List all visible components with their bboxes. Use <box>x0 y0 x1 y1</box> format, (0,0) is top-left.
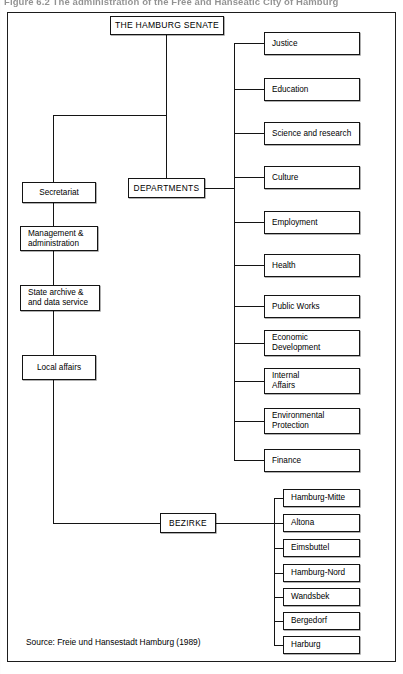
edge-departments-to-spine <box>205 188 235 189</box>
edge-bezirke-to-spine <box>216 523 275 524</box>
edge-senate-to-staff <box>53 115 167 116</box>
edge-spine-health <box>234 265 265 266</box>
node-secretariat[interactable]: Secretariat <box>22 182 96 203</box>
node-department-public-works[interactable]: Public Works <box>264 295 360 318</box>
node-local-affairs[interactable]: Local affairs <box>22 355 96 380</box>
figure-page: Figure 6.2 The administration of the Fre… <box>0 0 403 674</box>
edge-senate-stem <box>166 35 167 189</box>
node-department-economic-development[interactable]: Economic Development <box>264 330 360 356</box>
edge-spine-justice <box>234 43 265 44</box>
node-bezirk-hamburg-nord[interactable]: Hamburg-Nord <box>283 564 360 582</box>
node-bezirk-wandsbek[interactable]: Wandsbek <box>283 588 360 606</box>
node-management-administration[interactable]: Management & administration <box>20 226 98 251</box>
edge-local-affairs-drop <box>53 380 54 524</box>
node-bezirk-altona[interactable]: Altona <box>283 514 360 532</box>
edge-spine-public-works <box>234 306 265 307</box>
node-bezirk-bergedorf[interactable]: Bergedorf <box>283 612 360 630</box>
edge-spine-internal-affairs <box>234 381 265 382</box>
edge-spine-employment <box>234 222 265 223</box>
edge-staff-drop <box>53 115 54 183</box>
node-bezirke-hub[interactable]: BEZIRKE <box>160 513 216 533</box>
node-department-health[interactable]: Health <box>264 254 360 277</box>
figure-caption: Figure 6.2 The administration of the Fre… <box>4 0 400 8</box>
node-state-archive-data-service[interactable]: State archive & and data service <box>20 285 100 311</box>
node-department-culture[interactable]: Culture <box>264 166 360 189</box>
source-note: Source: Freie und Hansestadt Hamburg (19… <box>26 637 201 647</box>
node-department-internal-affairs[interactable]: Internal Affairs <box>264 368 360 394</box>
node-department-finance[interactable]: Finance <box>264 449 360 472</box>
node-bezirk-hamburg-mitte[interactable]: Hamburg-Mitte <box>283 489 360 507</box>
node-department-science-and-research[interactable]: Science and research <box>264 122 360 145</box>
edge-local-affairs-to-bezirke <box>53 523 160 524</box>
bezirke-spine <box>274 498 275 645</box>
edge-management-to-archive <box>53 251 54 285</box>
node-bezirk-harburg[interactable]: Harburg <box>283 636 360 654</box>
node-department-education[interactable]: Education <box>264 78 360 101</box>
node-departments-hub[interactable]: DEPARTMENTS <box>128 178 205 198</box>
edge-archive-to-local-affairs <box>53 311 54 355</box>
node-bezirk-eimsbuttel[interactable]: Eimsbuttel <box>283 539 360 557</box>
edge-spine-science-and-research <box>234 133 265 134</box>
edge-secretariat-to-management <box>53 203 54 226</box>
departments-spine <box>234 43 235 460</box>
node-department-justice[interactable]: Justice <box>264 32 360 55</box>
edge-spine-economic-development <box>234 343 265 344</box>
node-hamburg-senate[interactable]: THE HAMBURG SENATE <box>110 16 224 35</box>
edge-spine-culture <box>234 177 265 178</box>
node-department-employment[interactable]: Employment <box>264 211 360 234</box>
node-department-environmental-protection[interactable]: Environmental Protection <box>264 408 360 434</box>
edge-spine-education <box>234 89 265 90</box>
edge-spine-finance <box>234 460 265 461</box>
edge-spine-environmental-protection <box>234 421 265 422</box>
